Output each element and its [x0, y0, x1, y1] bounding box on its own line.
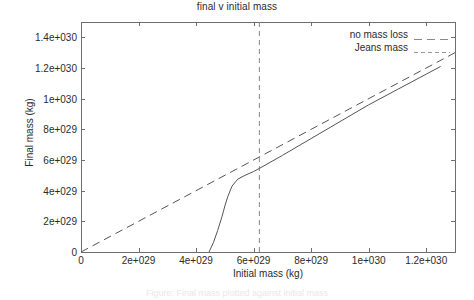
- x-tick-label: 1.2e+030: [405, 255, 447, 266]
- x-tick-label: 2e+029: [122, 255, 156, 266]
- figure-caption: Figure: Final mass plotted against initi…: [0, 288, 474, 298]
- y-tick-label: 2e+029: [17, 216, 77, 227]
- y-axis-label: Final mass (kg): [24, 53, 35, 213]
- legend-label: no mass loss: [350, 29, 408, 40]
- legend-entry: no mass loss: [350, 28, 450, 40]
- legend-label: Jeans mass: [355, 42, 408, 53]
- x-tick-label: 6e+029: [237, 255, 271, 266]
- x-tick-label: 4e+029: [179, 255, 213, 266]
- legend-line-sample: [414, 45, 450, 46]
- x-axis-label: Initial mass (kg): [81, 268, 455, 279]
- x-tick-label: 1e+030: [352, 255, 386, 266]
- x-tick-label: 0: [78, 255, 84, 266]
- legend-entry: Jeans mass: [355, 41, 450, 53]
- legend-line-sample: [414, 32, 450, 33]
- x-tick-label: 8e+029: [294, 255, 328, 266]
- chart-figure: final v initial mass 02e+0294e+0296e+029…: [0, 0, 474, 300]
- y-tick-label: 1.4e+030: [17, 32, 77, 43]
- y-tick-label: 0: [17, 247, 77, 258]
